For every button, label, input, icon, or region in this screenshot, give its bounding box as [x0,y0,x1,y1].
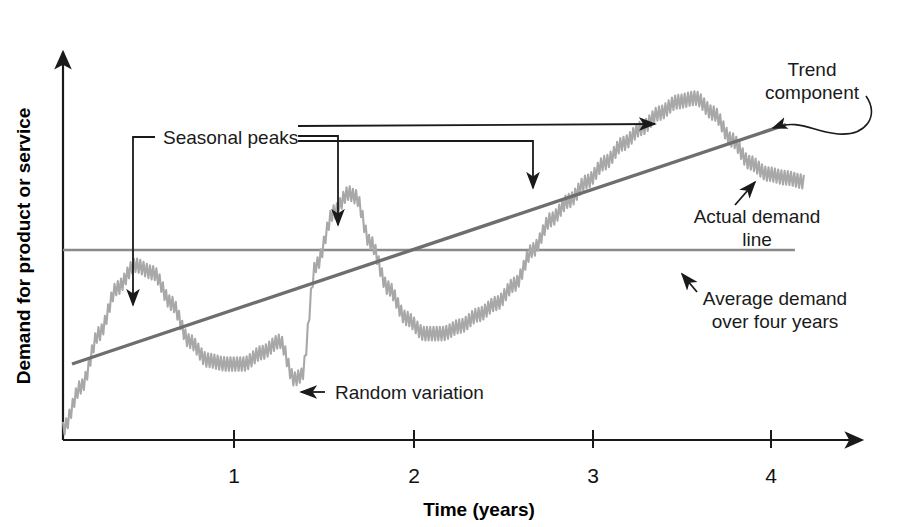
trend-component-annotation: Trend component [765,59,872,134]
seasonal-peaks-label: Seasonal peaks [163,127,298,148]
chart-svg: 1 2 3 4 Time (years) Demand for product … [0,0,913,527]
x-tick-label-1: 1 [228,464,240,487]
average-demand-annotation: Average demand over four years [682,274,847,332]
actual-demand-leader [735,182,755,205]
axis-group: 1 2 3 4 Time (years) Demand for product … [13,52,862,520]
average-demand-leader [682,274,697,292]
average-demand-label-line1: Average demand [703,288,847,309]
actual-demand-annotation: Actual demand line [694,182,821,250]
average-demand-label-line2: over four years [712,311,839,332]
random-variation-annotation: Random variation [301,382,484,403]
x-tick-label-4: 4 [765,464,777,487]
actual-demand-label-line2: line [742,229,772,250]
random-variation-label: Random variation [335,382,484,403]
trend-component-line [72,125,786,364]
seasonal-peaks-leader-right [298,124,655,126]
trend-component-label-line2: component [765,82,860,103]
seasonal-peaks-annotation: Seasonal peaks [133,124,655,305]
y-axis-title: Demand for product or service [13,108,34,385]
demand-components-figure: 1 2 3 4 Time (years) Demand for product … [0,0,913,527]
x-axis-title: Time (years) [423,499,535,520]
x-tick-label-2: 2 [408,464,420,487]
x-tick-label-3: 3 [587,464,599,487]
actual-demand-label-line1: Actual demand [694,206,821,227]
seasonal-peaks-leader-third [298,141,533,188]
trend-component-label-line1: Trend [788,59,837,80]
